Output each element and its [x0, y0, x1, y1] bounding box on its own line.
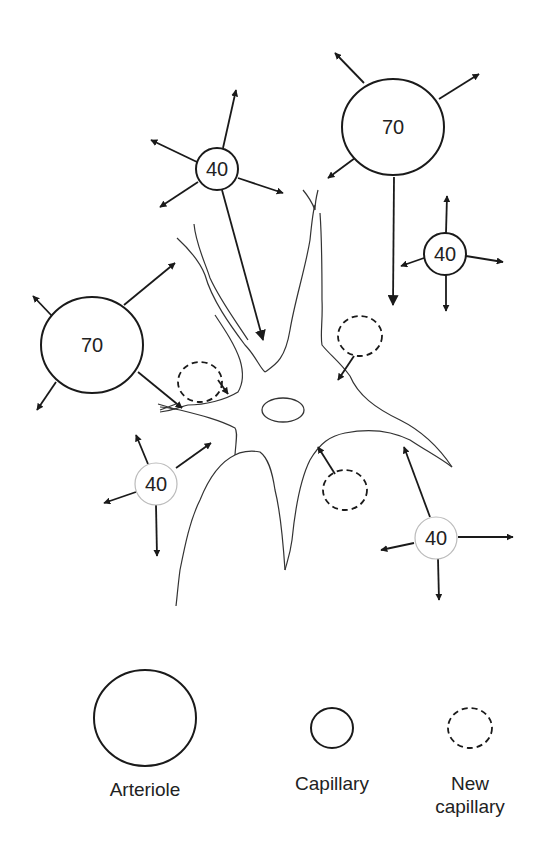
vessel-arteriole-left: 70	[41, 297, 143, 393]
vessel-label: 70	[81, 334, 103, 356]
vessel-capillary-bottom-left: 40	[135, 463, 177, 505]
legend: Arteriole Capillary New capillary	[94, 670, 505, 817]
vessel-capillary-right: 40	[424, 233, 466, 275]
new-capillary-left	[178, 362, 222, 402]
legend-item-new-capillary: New capillary	[435, 708, 505, 817]
legend-item-capillary: Capillary	[295, 708, 369, 794]
new-capillary-upper-right	[338, 316, 382, 356]
vessel-capillary-top-left: 40	[196, 148, 238, 190]
legend-label-capillary: Capillary	[295, 773, 369, 794]
legend-label-arteriole: Arteriole	[110, 779, 181, 800]
nucleus	[262, 398, 304, 422]
vessel-capillary-bottom-right: 40	[415, 517, 457, 559]
legend-label-capillary-2: capillary	[435, 796, 505, 817]
angiogenesis-diagram: 70 70 40 40 40 40 Arteriole Capillary	[0, 0, 541, 853]
vessel-label: 40	[434, 243, 456, 265]
legend-label-new: New	[451, 773, 489, 794]
legend-item-arteriole: Arteriole	[94, 670, 196, 800]
vessel-label: 40	[206, 158, 228, 180]
new-capillary-lower	[323, 470, 367, 510]
vessel-label: 40	[425, 527, 447, 549]
vessel-arteriole-top-right: 70	[342, 79, 444, 175]
vessel-label: 40	[145, 473, 167, 495]
vessel-label: 70	[382, 116, 404, 138]
